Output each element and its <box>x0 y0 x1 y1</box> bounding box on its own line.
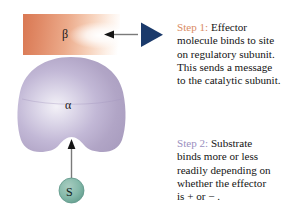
substrate-binding-arrow <box>68 139 76 178</box>
regulatory-subunit-label: β <box>62 28 68 40</box>
step-1-tag: Step 1: <box>177 21 208 33</box>
step-2-tag: Step 2: <box>177 137 208 149</box>
allosteric-enzyme-diagram: β α S Step 1: Effector molecule binds to… <box>0 0 307 220</box>
effector-triangle-icon <box>141 23 163 48</box>
catalytic-subunit-alpha <box>17 57 125 152</box>
substrate-label: S <box>66 186 73 198</box>
step-1-caption: Step 1: Effector molecule binds to site … <box>177 21 305 87</box>
catalytic-subunit-label: α <box>65 99 71 111</box>
step-2-caption: Step 2: Substrate binds more or less rea… <box>177 137 305 203</box>
